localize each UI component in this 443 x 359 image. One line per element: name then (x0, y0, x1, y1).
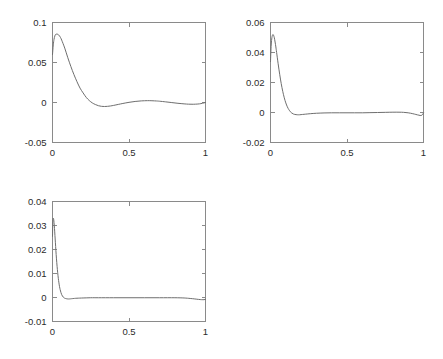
subplot-1-x-labels: 00.51 (50, 147, 208, 158)
y-tick-label: 0.02 (246, 77, 265, 88)
y-tick-label: -0.02 (243, 137, 265, 148)
x-tick-label: 0.5 (340, 147, 353, 158)
subplot-3-curve (53, 218, 206, 300)
subplot-3-x-ticks (53, 202, 206, 322)
subplot-bottom-left: -0.0100.010.020.030.04 00.51 (0, 180, 222, 359)
subplot-3-y-ticks (53, 202, 206, 322)
subplot-2-y-ticks (271, 23, 424, 143)
y-tick-label: 0 (41, 97, 46, 108)
subplot-3-y-labels: -0.0100.010.020.030.04 (25, 196, 47, 327)
figure-canvas: -0.0500.050.1 00.51 -0.0200.020.040.06 0… (0, 0, 443, 359)
x-tick-label: 1 (203, 147, 208, 158)
y-tick-label: 0.04 (28, 196, 47, 207)
y-tick-label: -0.05 (25, 137, 47, 148)
x-tick-label: 1 (421, 147, 426, 158)
y-tick-label: 0.06 (246, 17, 265, 28)
y-tick-label: 0.03 (28, 220, 47, 231)
x-tick-label: 0.5 (122, 326, 135, 337)
y-tick-label: 0.05 (28, 57, 47, 68)
subplot-2-x-labels: 00.51 (268, 147, 426, 158)
subplot-1-y-labels: -0.0500.050.1 (25, 17, 47, 148)
y-tick-label: -0.01 (25, 316, 47, 327)
subplot-3-frame (53, 202, 206, 322)
x-tick-label: 0 (50, 326, 55, 337)
x-tick-label: 1 (203, 326, 208, 337)
subplot-1-x-ticks (53, 23, 206, 143)
subplot-3-x-labels: 00.51 (50, 326, 208, 337)
subplot-3-svg: -0.0100.010.020.030.04 00.51 (0, 180, 222, 359)
subplot-2-curve (271, 34, 424, 115)
subplot-top-left: -0.0500.050.1 00.51 (0, 0, 222, 180)
subplot-2-svg: -0.0200.020.040.06 00.51 (222, 0, 443, 180)
y-tick-label: 0.1 (33, 17, 46, 28)
x-tick-label: 0 (268, 147, 273, 158)
subplot-bottom-right-empty (222, 180, 443, 359)
y-tick-label: 0.04 (246, 47, 265, 58)
subplot-1-frame (53, 23, 206, 143)
subplot-1-svg: -0.0500.050.1 00.51 (0, 0, 222, 180)
subplot-2-frame (271, 23, 424, 143)
x-tick-label: 0 (50, 147, 55, 158)
subplot-2-x-ticks (271, 23, 424, 143)
y-tick-label: 0.01 (28, 268, 47, 279)
x-tick-label: 0.5 (122, 147, 135, 158)
subplot-1-curve (53, 34, 206, 106)
y-tick-label: 0 (41, 292, 46, 303)
subplot-top-right: -0.0200.020.040.06 00.51 (222, 0, 443, 180)
subplot-1-y-ticks (53, 23, 206, 143)
subplot-2-y-labels: -0.0200.020.040.06 (243, 17, 265, 148)
y-tick-label: 0 (259, 107, 264, 118)
y-tick-label: 0.02 (28, 244, 47, 255)
